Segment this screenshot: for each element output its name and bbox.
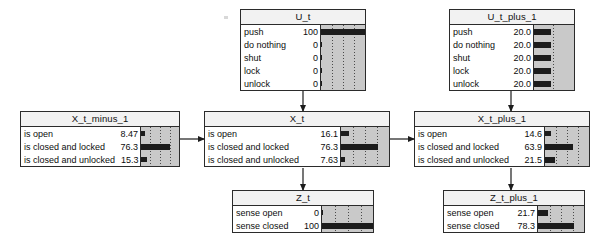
bar xyxy=(321,55,322,60)
bar xyxy=(534,55,551,61)
bar xyxy=(322,210,323,215)
node-z_t_plus_1[interactable]: Z_t_plus_1 sense open 21.7 sense closed … xyxy=(443,190,585,233)
node-body-z_t: sense open 0 sense closed 100 xyxy=(233,206,373,232)
row-label: shut xyxy=(453,53,476,63)
node-u_t_plus_1[interactable]: U_t_plus_1 push 20.0 do nothing 20.0 shu… xyxy=(449,9,575,91)
node-body-x_t_minus_1: is open 8.47 is closed and locked 76.3 i… xyxy=(21,127,179,166)
row-value: 7.63 xyxy=(320,155,338,165)
table-row[interactable]: sense closed 100 xyxy=(233,219,321,232)
row-value: 0 xyxy=(313,66,318,76)
node-x_t_minus_1[interactable]: X_t_minus_1 is open 8.47 is closed and l… xyxy=(20,111,180,167)
node-body-x_t_plus_1: is open 14.6 is closed and locked 63.9 i… xyxy=(415,127,589,166)
node-rows-u_t: push 100 do nothing 0 shut 0 lock 0 unlo… xyxy=(241,25,321,90)
row-label: push xyxy=(244,27,270,37)
bar xyxy=(534,42,551,48)
row-value: 76.3 xyxy=(120,142,138,152)
row-value: 20.0 xyxy=(513,66,531,76)
row-label: shut xyxy=(244,53,267,63)
node-u_t[interactable]: U_t push 100 do nothing 0 shut 0 lock 0 xyxy=(240,9,366,91)
bar xyxy=(341,144,378,150)
node-z_t[interactable]: Z_t sense open 0 sense closed 100 xyxy=(232,190,374,233)
node-barchart-x_t xyxy=(341,127,389,166)
node-barchart-z_t_plus_1 xyxy=(538,206,584,232)
bar xyxy=(341,131,349,136)
bar-rows xyxy=(321,25,365,90)
node-body-u_t_plus_1: push 20.0 do nothing 20.0 shut 20.0 lock… xyxy=(450,25,574,90)
row-label: unlock xyxy=(244,79,276,89)
row-value: 8.47 xyxy=(120,129,138,139)
row-label: lock xyxy=(244,66,266,76)
node-x_t_plus_1[interactable]: X_t_plus_1 is open 14.6 is closed and lo… xyxy=(414,111,590,167)
bar xyxy=(534,68,551,74)
node-body-x_t: is open 16.1 is closed and locked 76.3 i… xyxy=(205,127,389,166)
table-row[interactable]: is closed and locked 63.9 xyxy=(415,140,544,153)
bar xyxy=(341,157,345,162)
table-row[interactable]: do nothing 20.0 xyxy=(450,38,533,51)
row-value: 20.0 xyxy=(513,40,531,50)
node-x_t[interactable]: X_t is open 16.1 is closed and locked 76… xyxy=(204,111,390,167)
row-label: sense open xyxy=(236,208,289,218)
row-value: 63.9 xyxy=(524,142,542,152)
row-value: 16.1 xyxy=(320,129,338,139)
bar xyxy=(538,223,574,229)
bar-rows xyxy=(545,127,589,166)
table-row[interactable]: sense closed 78.3 xyxy=(444,219,537,232)
row-label: do nothing xyxy=(453,40,501,50)
diagram-canvas: U_t push 100 do nothing 0 shut 0 lock 0 xyxy=(0,0,605,248)
bar xyxy=(538,210,548,216)
node-barchart-u_t_plus_1 xyxy=(534,25,574,90)
row-label: push xyxy=(453,27,479,37)
row-label: lock xyxy=(453,66,475,76)
bar xyxy=(545,144,573,150)
row-value: 20.0 xyxy=(513,27,531,37)
node-title-x_t_minus_1: X_t_minus_1 xyxy=(21,112,179,127)
row-label: sense closed xyxy=(447,221,506,231)
bar xyxy=(321,81,322,86)
node-title-x_t: X_t xyxy=(205,112,389,127)
table-row[interactable]: push 20.0 xyxy=(450,25,533,38)
row-label: is open xyxy=(24,129,59,139)
bar-rows xyxy=(141,127,179,166)
node-rows-z_t_plus_1: sense open 21.7 sense closed 78.3 xyxy=(444,206,538,232)
row-label: is closed and locked xyxy=(208,142,295,152)
node-rows-x_t: is open 16.1 is closed and locked 76.3 i… xyxy=(205,127,341,166)
node-title-x_t_plus_1: X_t_plus_1 xyxy=(415,112,589,127)
table-row[interactable]: is open 14.6 xyxy=(415,127,544,140)
table-row[interactable]: is closed and locked 76.3 xyxy=(21,140,140,153)
table-row[interactable]: is closed and unlocked 15.3 xyxy=(21,153,140,166)
node-rows-z_t: sense open 0 sense closed 100 xyxy=(233,206,322,232)
row-value: 0 xyxy=(314,208,319,218)
row-label: is closed and locked xyxy=(24,142,111,152)
table-row[interactable]: is closed and locked 76.3 xyxy=(205,140,340,153)
bar xyxy=(141,131,145,136)
table-row[interactable]: is closed and unlocked 7.63 xyxy=(205,153,340,166)
row-label: sense open xyxy=(447,208,500,218)
table-row[interactable]: sense open 0 xyxy=(233,206,321,219)
row-value: 0 xyxy=(313,53,318,63)
row-value: 0 xyxy=(313,79,318,89)
bar-rows xyxy=(538,206,584,232)
table-row[interactable]: shut 0 xyxy=(241,51,320,64)
bar-rows xyxy=(341,127,389,166)
table-row[interactable]: unlock 0 xyxy=(241,77,320,90)
table-row[interactable]: lock 20.0 xyxy=(450,64,533,77)
row-label: is closed and unlocked xyxy=(208,155,305,165)
row-value: 20.0 xyxy=(513,79,531,89)
table-row[interactable]: sense open 21.7 xyxy=(444,206,537,219)
node-title-z_t_plus_1: Z_t_plus_1 xyxy=(444,191,584,206)
table-row[interactable]: push 100 xyxy=(241,25,320,38)
row-label: do nothing xyxy=(244,40,292,50)
table-row[interactable]: do nothing 0 xyxy=(241,38,320,51)
node-rows-x_t_plus_1: is open 14.6 is closed and locked 63.9 i… xyxy=(415,127,545,166)
row-value: 100 xyxy=(304,221,319,231)
node-title-z_t: Z_t xyxy=(233,191,373,206)
bar xyxy=(321,29,365,35)
table-row[interactable]: is closed and unlocked 21.5 xyxy=(415,153,544,166)
table-row[interactable]: is open 16.1 xyxy=(205,127,340,140)
table-row[interactable]: is open 8.47 xyxy=(21,127,140,140)
table-row[interactable]: unlock 20.0 xyxy=(450,77,533,90)
table-row[interactable]: lock 0 xyxy=(241,64,320,77)
table-row[interactable]: shut 20.0 xyxy=(450,51,533,64)
row-value: 78.3 xyxy=(517,221,535,231)
bar xyxy=(545,157,555,163)
